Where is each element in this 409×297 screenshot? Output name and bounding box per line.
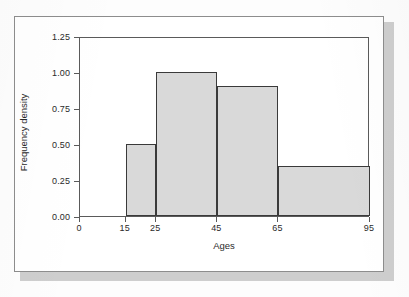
y-axis-tick-label: 1.00 (36, 68, 70, 78)
y-axis-tick-label: 1.25 (36, 32, 70, 42)
x-axis-tick-label: 95 (354, 223, 384, 233)
x-axis-tick-mark (369, 217, 370, 222)
x-axis-tick-mark (125, 217, 126, 222)
histogram-bars (80, 38, 368, 216)
plot-area (79, 37, 369, 217)
x-axis-title: Ages (79, 240, 369, 251)
y-axis-ticks: 0.000.250.500.751.001.25 (0, 0, 79, 297)
histogram-bar (217, 86, 278, 216)
x-axis-tick-mark (79, 217, 80, 222)
y-axis-tick-label: 0.25 (36, 176, 70, 186)
x-axis-tick-label: 45 (201, 223, 231, 233)
y-axis-title: Frequency density (18, 73, 29, 193)
x-axis-tick-label: 25 (140, 223, 170, 233)
histogram-bar (278, 166, 370, 216)
y-axis-tick-label: 0.75 (36, 104, 70, 114)
x-axis-tick-mark (216, 217, 217, 222)
histogram-bar (156, 72, 217, 216)
y-axis-tick-label: 0.50 (36, 140, 70, 150)
x-axis-tick-label: 65 (262, 223, 292, 233)
histogram-bar (126, 144, 157, 216)
x-axis-tick-mark (277, 217, 278, 222)
x-axis-tick-label: 15 (110, 223, 140, 233)
x-axis-tick-mark (155, 217, 156, 222)
scanned-page: 0.000.250.500.751.001.25 01525456595 Age… (0, 0, 409, 297)
x-axis-tick-label: 0 (64, 223, 94, 233)
y-axis-tick-label: 0.00 (36, 212, 70, 222)
